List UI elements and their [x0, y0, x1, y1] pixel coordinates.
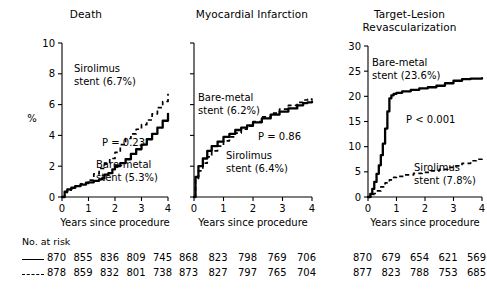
x-tick-label: 1 [393, 203, 399, 214]
x-tick-label: 0 [59, 203, 65, 214]
number-at-risk-cell: 801 [120, 267, 146, 278]
panel-tlr-plot: 05101520253001234Years since procedureBa… [332, 0, 487, 232]
number-at-risk-cell: 827 [202, 267, 228, 278]
x-tick-label: 1 [85, 203, 91, 214]
panel-tlr: Target-Lesion Revascularization 05101520… [332, 0, 487, 232]
number-at-risk-rows: 8708558368097458688237987697068706796546… [0, 252, 487, 282]
x-tick-label: 2 [112, 203, 118, 214]
number-at-risk-table: No. at risk 8708558368097458688237987697… [0, 234, 487, 304]
y-tick-label: 15 [348, 116, 361, 127]
curve-annotation: Sirolimusstent (6.7%) [74, 63, 136, 87]
number-at-risk-cell: 738 [146, 267, 172, 278]
curve-bare-metal-stent [62, 114, 168, 197]
curve-annotation: Bare-metalstent (6.2%) [198, 92, 260, 116]
x-tick-label: 4 [165, 203, 171, 214]
panel-death: Death 024681001234Years since procedure%… [0, 0, 172, 232]
number-at-risk-cell: 753 [432, 267, 458, 278]
x-tick-label: 0 [191, 203, 197, 214]
number-at-risk-cell: 855 [67, 252, 93, 263]
x-tick-label: 3 [279, 203, 285, 214]
curve-annotation: Bare-metalstent (5.3%) [96, 159, 158, 183]
number-at-risk-cell: 836 [93, 252, 119, 263]
number-at-risk-cell: 706 [290, 252, 316, 263]
curve-annotation: Sirolimusstent (7.8%) [414, 162, 476, 186]
number-at-risk-cell: 870 [40, 252, 66, 263]
number-at-risk-cell: 877 [346, 267, 372, 278]
x-tick-label: 3 [450, 203, 456, 214]
number-at-risk-cell: 873 [172, 267, 198, 278]
p-value-label: P < 0.001 [406, 114, 455, 125]
number-at-risk-cell: 859 [67, 267, 93, 278]
number-at-risk-row: 8708558368097458688237987697068706796546… [0, 252, 487, 267]
number-at-risk-cell: 621 [432, 252, 458, 263]
y-tick-label: 10 [348, 141, 361, 152]
p-value-label: P = 0.23 [102, 137, 145, 148]
number-at-risk-cell: 769 [261, 252, 287, 263]
number-at-risk-cell: 797 [231, 267, 257, 278]
y-tick-label: 25 [348, 66, 361, 77]
x-tick-label: 2 [250, 203, 256, 214]
number-at-risk-cell: 569 [460, 252, 486, 263]
number-at-risk-cell: 798 [231, 252, 257, 263]
curve-annotation: Bare-metalstent (23.6%) [372, 57, 440, 81]
y-tick-label: 6 [49, 99, 55, 110]
x-tick-label: 4 [479, 203, 485, 214]
number-at-risk-cell: 823 [375, 267, 401, 278]
panel-death-plot: 024681001234Years since procedure%Siroli… [0, 0, 172, 232]
y-tick-label: 30 [348, 41, 361, 52]
curve-annotation: Sirolimusstent (6.4%) [226, 150, 288, 174]
number-at-risk-cell: 788 [403, 267, 429, 278]
number-at-risk-cell: 654 [403, 252, 429, 263]
y-tick-label: 10 [42, 38, 55, 49]
number-at-risk-cell: 765 [261, 267, 287, 278]
number-at-risk-cell: 823 [202, 252, 228, 263]
number-at-risk-cell: 679 [375, 252, 401, 263]
number-at-risk-row: 8788598328017388738277977657048778237887… [0, 267, 487, 282]
y-tick-label: 2 [49, 161, 55, 172]
panel-mi-plot: 01234Years since procedureBare-metalsten… [172, 0, 332, 232]
number-at-risk-cell: 832 [93, 267, 119, 278]
x-tick-label: 1 [220, 203, 226, 214]
y-tick-label: 0 [49, 192, 55, 203]
number-at-risk-cell: 878 [40, 267, 66, 278]
x-tick-label: 0 [365, 203, 371, 214]
number-at-risk-cell: 870 [346, 252, 372, 263]
number-at-risk-cell: 868 [172, 252, 198, 263]
x-tick-label: 4 [309, 203, 315, 214]
y-tick-label: 0 [355, 192, 361, 203]
p-value-label: P = 0.86 [258, 131, 301, 142]
panel-mi: Myocardial Infarction 01234Years since p… [172, 0, 332, 232]
y-tick-label: 5 [355, 166, 361, 177]
x-tick-label: 3 [138, 203, 144, 214]
y-tick-label: 20 [348, 91, 361, 102]
x-axis-caption: Years since procedure [59, 217, 169, 228]
number-at-risk-cell: 745 [146, 252, 172, 263]
x-axis-caption: Years since procedure [369, 217, 479, 228]
y-axis-label-percent: % [27, 113, 37, 124]
number-at-risk-title: No. at risk [22, 236, 70, 247]
number-at-risk-cell: 809 [120, 252, 146, 263]
number-at-risk-cell: 704 [290, 267, 316, 278]
x-axis-caption: Years since procedure [197, 217, 307, 228]
kaplan-meier-figure: Death 024681001234Years since procedure%… [0, 0, 487, 304]
number-at-risk-cell: 685 [460, 267, 486, 278]
y-tick-label: 4 [49, 130, 55, 141]
x-tick-label: 2 [422, 203, 428, 214]
y-tick-label: 8 [49, 68, 55, 79]
